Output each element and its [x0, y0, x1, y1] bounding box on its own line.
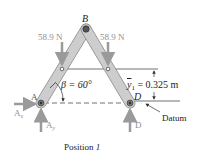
- label-reaction-ax: Ax: [14, 108, 24, 119]
- label-reaction-ay: Ay: [46, 120, 56, 131]
- midpoint-right: [106, 67, 110, 71]
- linkage-diagram: B 58.9 N 58.9 N A β = 60° y1 = 0.325 m D…: [0, 0, 206, 158]
- label-d-datum: D: [133, 91, 142, 102]
- label-b: B: [82, 13, 88, 24]
- label-datum: Datum: [162, 113, 187, 123]
- pin-d: [127, 100, 133, 106]
- label-force-left: 58.9 N: [38, 32, 63, 42]
- datum-leader-arrow: [146, 104, 160, 112]
- label-reaction-d: D: [135, 120, 142, 130]
- midpoint-left: [60, 67, 64, 71]
- pin-b: [83, 26, 89, 32]
- label-force-right: 58.9 N: [100, 32, 125, 42]
- label-a: A: [31, 92, 38, 102]
- label-angle: β = 60°: [60, 79, 92, 90]
- pin-a: [38, 100, 44, 106]
- figure-caption: Position 1: [64, 142, 100, 152]
